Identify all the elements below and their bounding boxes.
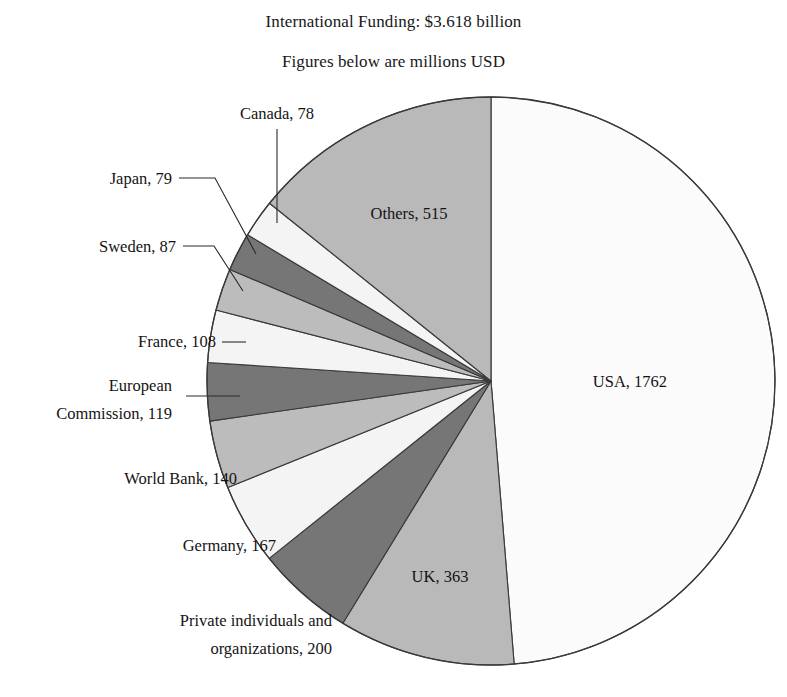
slice-label: USA, 1762 bbox=[593, 372, 667, 391]
pie-chart: USA, 1762UK, 363Private individuals ando… bbox=[0, 0, 787, 697]
pie-slices bbox=[207, 97, 775, 665]
slice-label: Others, 515 bbox=[371, 204, 448, 223]
slice-label: Germany, 167 bbox=[183, 536, 276, 555]
chart-root: International Funding: $3.618 billion Fi… bbox=[0, 0, 787, 697]
slice-label: Private individuals and bbox=[180, 611, 333, 630]
slice-label: organizations, 200 bbox=[210, 639, 332, 658]
slice-label: World Bank, 140 bbox=[124, 469, 237, 488]
slice-label: Commission, 119 bbox=[56, 404, 172, 423]
slice-label: European bbox=[109, 376, 172, 395]
slice-label: Sweden, 87 bbox=[99, 237, 176, 256]
slice-label: France, 108 bbox=[138, 332, 216, 351]
slice-label: UK, 363 bbox=[412, 567, 469, 586]
slice-label: Canada, 78 bbox=[240, 104, 314, 123]
slice-label: Japan, 79 bbox=[110, 169, 172, 188]
